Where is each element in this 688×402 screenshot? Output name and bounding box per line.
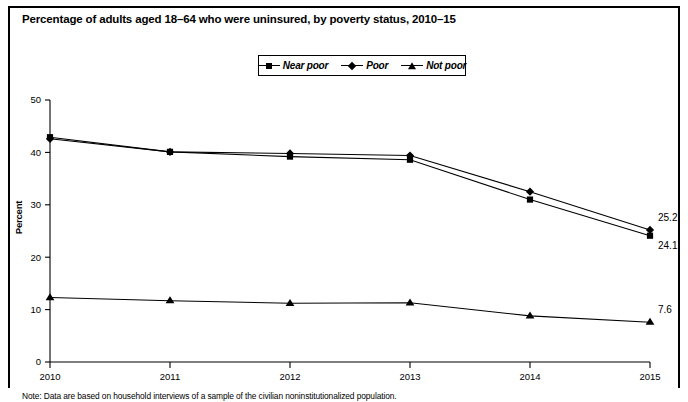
data-labels-layer: 25.224.17.6 — [658, 212, 678, 315]
figure-note: Note: Data are based on household interv… — [22, 391, 397, 401]
data-label-near-poor: 24.1 — [658, 240, 678, 251]
figure-panel: Percentage of adults aged 18–64 who were… — [0, 0, 688, 402]
square-marker — [527, 196, 533, 202]
triangle-marker — [166, 296, 175, 303]
series-line-near-poor — [50, 137, 650, 236]
triangle-marker — [406, 298, 415, 305]
y-tick-label: 30 — [30, 199, 41, 210]
y-tick-label: 10 — [30, 304, 41, 315]
plot-area: 50403020100 201020112012201320142015 25.… — [0, 0, 688, 402]
y-tick-label: 20 — [30, 252, 41, 263]
x-tick-label: 2014 — [519, 371, 540, 382]
triangle-marker — [286, 299, 295, 306]
x-tick-label: 2011 — [160, 371, 180, 382]
square-marker — [287, 153, 293, 159]
x-tick-label: 2013 — [399, 371, 420, 382]
series-line-poor — [50, 139, 650, 230]
x-axis: 201020112012201320142015 — [39, 362, 660, 382]
square-marker — [167, 149, 173, 155]
diamond-marker — [526, 188, 534, 196]
triangle-marker — [646, 318, 655, 325]
y-tick-label: 50 — [30, 94, 41, 105]
y-tick-label: 0 — [36, 356, 41, 367]
y-axis-title: Percent — [13, 188, 24, 248]
y-tick-label: 40 — [30, 147, 41, 158]
square-marker — [647, 233, 653, 239]
series-layer — [46, 134, 655, 325]
x-tick-label: 2010 — [39, 371, 60, 382]
x-tick-label: 2015 — [639, 371, 660, 382]
triangle-marker — [46, 293, 55, 300]
data-label-poor: 25.2 — [658, 212, 678, 223]
square-marker — [47, 134, 53, 140]
series-line-not-poor — [50, 298, 650, 323]
data-label-not-poor: 7.6 — [658, 304, 672, 315]
square-marker — [407, 157, 413, 163]
x-tick-label: 2012 — [279, 371, 300, 382]
